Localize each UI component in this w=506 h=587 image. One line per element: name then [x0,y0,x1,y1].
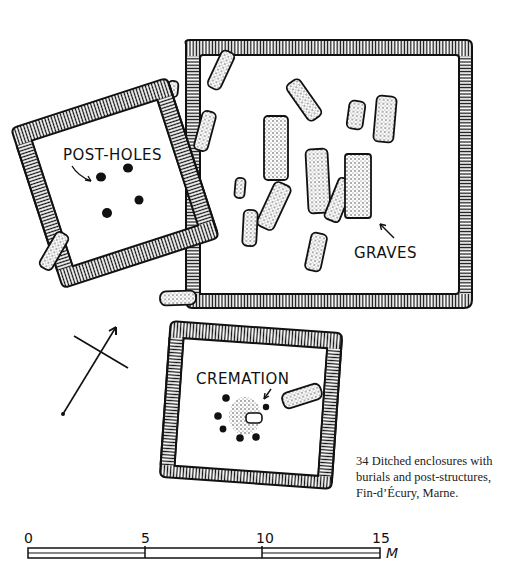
caption-line-2: burials and post-structures, [356,469,506,485]
post-holes [96,164,144,219]
grave [305,148,330,213]
post-holes-label: POST-HOLES [63,148,162,163]
grave [373,95,397,143]
post-hole [123,164,133,173]
grave [345,154,371,218]
grave [304,232,328,272]
scale-tick-15: 15 [372,531,390,545]
post-hole [96,173,106,182]
cremation-deposit [229,397,262,435]
grave [264,116,288,180]
scale-tick-10: 10 [256,531,274,545]
scale-unit: M [386,546,398,560]
grave [346,100,366,130]
cremation-pointer-arrow [264,389,271,399]
post-hole [102,208,112,218]
post-hole [135,196,144,205]
figure-caption: 34 Ditched enclosures with burials and p… [356,453,506,501]
grave [256,180,293,231]
grave [285,77,323,122]
graves-pointer-arrow [380,224,394,238]
grave [160,290,196,305]
grave [234,178,246,199]
posthole-pointer-arrow [72,166,91,181]
graves-label: GRAVES [354,246,417,261]
scale-bar [28,546,380,558]
caption-line-1: 34 Ditched enclosures with [356,453,506,469]
scale-tick-0: 0 [24,531,33,545]
scale-tick-5: 5 [141,531,150,545]
cremation-label: CREMATION [196,372,290,387]
north-arrow-icon [62,327,128,415]
caption-line-3: Fin-d’Écury, Marne. [356,485,506,501]
grave [242,210,258,247]
